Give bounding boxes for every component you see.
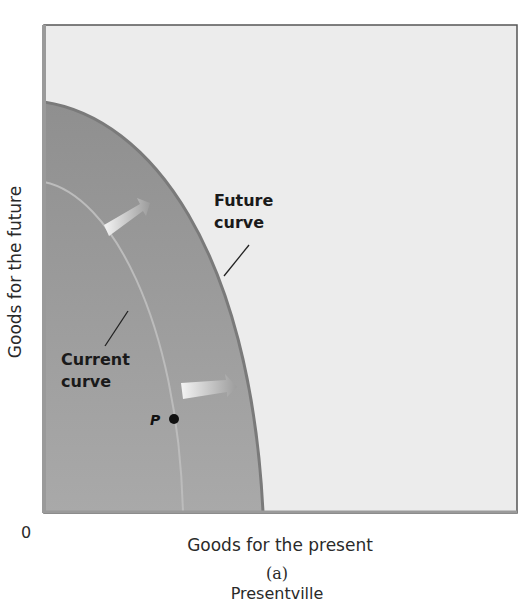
- current-label-line1: Current: [61, 349, 130, 371]
- future-label-line1: Future: [214, 190, 273, 212]
- y-axis-label: Goods for the future: [5, 186, 25, 358]
- point-p-label: P: [150, 412, 160, 428]
- chart-title: Presentville: [231, 584, 324, 603]
- x-axis-label: Goods for the present: [187, 535, 373, 555]
- current-label-line2: curve: [61, 371, 130, 393]
- future-curve-label: Future curve: [214, 190, 273, 234]
- ppf-chart: [0, 0, 531, 606]
- current-curve-label: Current curve: [61, 349, 130, 393]
- panel-label: (a): [266, 564, 288, 583]
- origin-label: 0: [21, 523, 31, 542]
- future-label-line2: curve: [214, 212, 273, 234]
- point-p: [169, 414, 179, 424]
